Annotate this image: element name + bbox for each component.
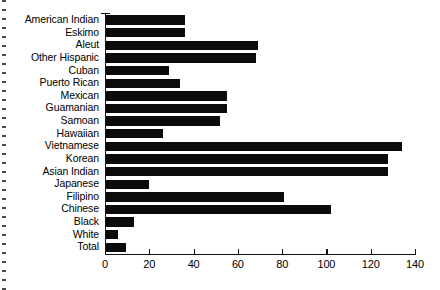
x-axis-tick-label: 20 <box>143 258 155 271</box>
bar-row: White <box>0 229 440 242</box>
x-axis-tick-label: 80 <box>276 258 288 271</box>
category-label: Hawaiian <box>57 127 99 140</box>
bar <box>106 53 256 62</box>
bar <box>106 217 134 226</box>
x-axis-tick-mark <box>371 249 372 255</box>
category-label: Korean <box>66 152 99 165</box>
x-axis-tick-label: 60 <box>232 258 244 271</box>
category-label: White <box>73 228 99 241</box>
category-label: Puerto Rican <box>40 76 100 89</box>
bar <box>106 28 185 37</box>
x-axis-tick-mark <box>149 249 150 255</box>
bar <box>106 180 149 189</box>
x-axis-tick-mark <box>415 249 416 255</box>
x-axis-tick-mark <box>105 249 106 255</box>
category-label: Total <box>77 240 99 253</box>
bar <box>106 129 163 138</box>
bar <box>106 15 185 24</box>
bar <box>106 79 180 88</box>
category-label: Chinese <box>61 202 99 215</box>
bar-row: Eskimo <box>0 27 440 40</box>
bar <box>106 243 126 252</box>
x-axis-tick-mark <box>238 249 239 255</box>
bar-row: Total <box>0 241 440 254</box>
category-label: Other Hispanic <box>31 51 99 64</box>
x-axis-line <box>105 254 416 255</box>
category-label: Asian Indian <box>42 165 99 178</box>
x-axis-tick-label: 100 <box>318 258 336 271</box>
x-axis-tick-label: 40 <box>188 258 200 271</box>
category-label: American Indian <box>25 13 99 26</box>
bar <box>106 154 388 163</box>
bar <box>106 41 258 50</box>
x-axis-tick-mark <box>326 249 327 255</box>
bar <box>106 66 169 75</box>
x-axis-tick-mark <box>282 249 283 255</box>
x-axis-tick-label: 0 <box>102 258 108 271</box>
x-axis-tick-mark <box>194 249 195 255</box>
bar <box>106 167 388 176</box>
bar-chart-figure: American IndianEskimoAleutOther Hispanic… <box>0 0 440 290</box>
category-label: Aleut <box>76 38 99 51</box>
x-axis-tick-label: 120 <box>362 258 380 271</box>
bar-row: Chinese <box>0 203 440 216</box>
bar-row: Black <box>0 216 440 229</box>
bar <box>106 104 227 113</box>
bar <box>106 230 118 239</box>
bar <box>106 116 220 125</box>
category-label: Guamanian <box>46 101 99 114</box>
bar <box>106 142 402 151</box>
bar <box>106 205 331 214</box>
category-label: Black <box>74 215 99 228</box>
category-label: Eskimo <box>65 26 99 39</box>
category-label: Mexican <box>61 89 99 102</box>
category-label: Japanese <box>54 177 99 190</box>
category-label: Samoan <box>60 114 99 127</box>
category-label: Cuban <box>69 64 99 77</box>
bar <box>106 192 284 201</box>
category-label: Filipino <box>67 190 99 203</box>
bar-row: Other Hispanic <box>0 52 440 65</box>
x-axis-tick-label: 140 <box>406 258 424 271</box>
bar <box>106 91 227 100</box>
category-label: Vietnamese <box>45 139 99 152</box>
